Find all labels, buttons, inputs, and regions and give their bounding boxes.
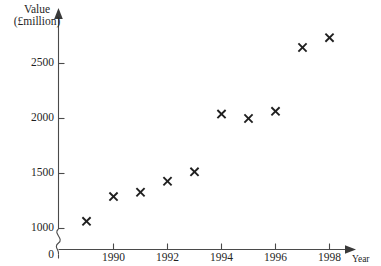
y-axis-title: Value (£million) — [2, 4, 72, 27]
x-tick-label-1992: 1992 — [148, 252, 188, 264]
data-point-marker — [217, 110, 225, 118]
x-tick-label-1990: 1990 — [94, 252, 134, 264]
y-tick-label-1500: 1500 — [10, 167, 54, 179]
data-point-marker — [190, 168, 198, 176]
data-point-marker — [298, 43, 306, 51]
x-axis-title: Year — [352, 255, 370, 265]
y-axis-origin-label: 0 — [40, 249, 54, 261]
x-tick-label-1996: 1996 — [256, 252, 296, 264]
y-tick-label-1000: 1000 — [10, 222, 54, 234]
data-point-marker — [325, 34, 333, 42]
x-tick-label-1998: 1998 — [310, 252, 350, 264]
y-axis-title-line2: (£million) — [2, 16, 72, 28]
x-tick-label-1994: 1994 — [202, 252, 242, 264]
y-axis-title-line1: Value — [24, 3, 50, 15]
data-point-marker — [109, 193, 117, 201]
scatter-chart: Value (£million) 2500 2000 1500 1000 0 1… — [0, 0, 381, 266]
data-point-marker — [136, 188, 144, 196]
y-axis-break-icon — [56, 229, 60, 255]
data-point-marker — [163, 177, 171, 185]
data-point-marker — [244, 114, 252, 122]
data-point-group — [82, 34, 333, 226]
data-point-marker — [271, 107, 279, 115]
chart-canvas — [0, 0, 381, 266]
y-tick-label-2000: 2000 — [10, 112, 54, 124]
data-point-marker — [82, 217, 90, 225]
y-tick-label-2500: 2500 — [10, 57, 54, 69]
